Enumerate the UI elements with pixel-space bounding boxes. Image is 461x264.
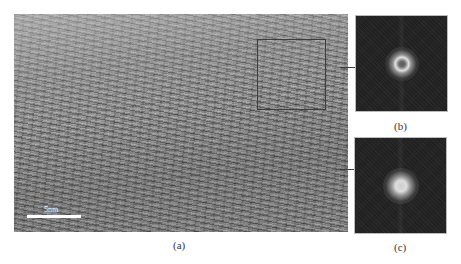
connector-line-b [340, 67, 355, 68]
scale-bar [27, 215, 81, 218]
panel-label-a: (a) [173, 239, 185, 251]
fft-panel-c [354, 137, 447, 234]
fft-diffuse-ring [385, 47, 419, 81]
region-of-interest-box [257, 39, 326, 110]
fft-diffuse-ring [383, 168, 419, 204]
scale-bar-label: 5nm [44, 205, 58, 215]
panel-label-c: (c) [394, 241, 406, 253]
panel-label-b: (b) [394, 120, 407, 132]
fft-panel-b [355, 15, 448, 112]
connector-line-c [340, 169, 354, 170]
